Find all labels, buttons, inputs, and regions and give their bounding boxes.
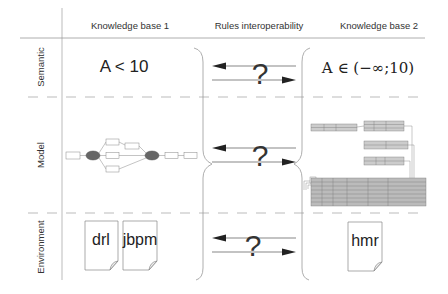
left-arrow-icon — [212, 235, 226, 242]
task-node — [106, 139, 119, 145]
left-arrow-icon — [212, 145, 226, 152]
column-header-knowledge-base-1: Knowledge base 1 — [91, 20, 169, 31]
right-arrow-icon — [282, 249, 296, 256]
interop-question-environment: ? — [245, 231, 262, 261]
right-arrow-icon — [282, 159, 296, 166]
column-header-rules-interoperability: Rules interoperability — [215, 20, 304, 31]
kb2-semantic-expression: A ∈ (−∞;10) — [322, 59, 414, 77]
task-node — [106, 166, 119, 172]
start-node — [66, 152, 80, 159]
row-label-environment: Environment — [35, 220, 46, 273]
file-label-drl: drl — [92, 231, 110, 249]
task-node — [165, 153, 178, 159]
right-arrow-icon — [282, 77, 296, 84]
column-header-knowledge-base-2: Knowledge base 2 — [340, 20, 418, 31]
row-label-model: Model — [35, 142, 46, 168]
kb2-decision-tables — [304, 121, 426, 206]
table-thumbnail — [364, 121, 404, 131]
file-label-hmr: hmr — [351, 232, 379, 250]
right-brace — [294, 48, 310, 280]
diagram-canvas — [0, 0, 448, 294]
kb1-semantic-expression: A < 10 — [100, 57, 149, 77]
task-node — [106, 153, 119, 159]
end-node — [184, 153, 197, 159]
interop-question-model: ? — [252, 141, 269, 171]
interop-question-semantic: ? — [252, 59, 269, 89]
task-node — [125, 143, 139, 149]
join-gateway — [145, 151, 159, 160]
left-arrow-icon — [212, 63, 226, 70]
split-gateway — [86, 151, 100, 160]
row-label-semantic: Semantic — [35, 47, 46, 87]
file-label-jbpm: jbpm — [123, 231, 158, 249]
left-brace — [194, 48, 212, 280]
kb1-process-graph — [66, 139, 197, 172]
